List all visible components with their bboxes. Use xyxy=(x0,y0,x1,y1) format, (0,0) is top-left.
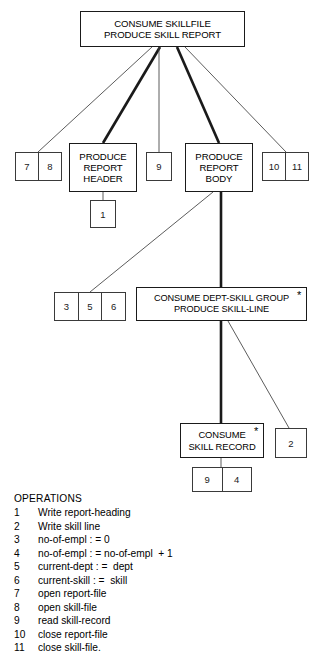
legend-item: 1Write report-heading xyxy=(14,506,314,519)
legend-item-text: Write report-heading xyxy=(38,506,314,519)
operation-cell: 8 xyxy=(39,153,61,180)
operation-cell: 5 xyxy=(79,293,103,320)
legend-item: 8open skill-file xyxy=(14,601,314,614)
operation-cell: 3 xyxy=(55,293,79,320)
legend-item: 2Write skill line xyxy=(14,520,314,533)
operation-box-ops-2: 2 xyxy=(275,428,307,458)
operation-cell: 4 xyxy=(223,468,252,491)
process-label-skill-record: CONSUME SKILL RECORD xyxy=(188,429,255,451)
operation-cell: 2 xyxy=(276,429,306,457)
legend-item-number: 4 xyxy=(14,547,38,560)
operation-cell: 7 xyxy=(16,153,39,180)
legend-item-number: 2 xyxy=(14,520,38,533)
process-label-root: CONSUME SKILLFILE PRODUCE SKILL REPORT xyxy=(104,18,221,41)
legend-item-text: current-skill : = skill xyxy=(38,574,314,587)
connector-root-to-ops78 xyxy=(38,47,152,152)
legend-rows: 1Write report-heading2Write skill line3n… xyxy=(14,506,314,654)
operation-cell: 6 xyxy=(102,293,125,320)
process-label-dept-skill-group: CONSUME DEPT-SKILL GROUP PRODUCE SKILL-L… xyxy=(154,293,289,315)
legend-item-number: 5 xyxy=(14,560,38,573)
operation-box-ops-1: 1 xyxy=(90,200,116,228)
legend-item: 11close skill-file. xyxy=(14,641,314,654)
legend-item-number: 6 xyxy=(14,574,38,587)
iteration-marker-dept-skill-group: * xyxy=(297,290,301,301)
legend-item-text: close skill-file. xyxy=(38,641,314,654)
legend-item: 7open report-file xyxy=(14,587,314,600)
legend-item-text: close report-file xyxy=(38,628,314,641)
process-label-report-header: PRODUCE REPORT HEADER xyxy=(79,151,126,185)
connector-root-to-body xyxy=(177,47,219,143)
legend-item: 3no-of-empl : = 0 xyxy=(14,533,314,546)
connector-root-to-header xyxy=(103,47,160,143)
legend-item-number: 9 xyxy=(14,614,38,627)
legend-item-number: 7 xyxy=(14,587,38,600)
operation-box-ops-3-5-6: 356 xyxy=(54,292,126,321)
legend-item-text: open skill-file xyxy=(38,601,314,614)
connector-group-to-ops2 xyxy=(228,321,289,428)
legend-item: 10close report-file xyxy=(14,628,314,641)
legend-item: 4no-of-empl : = no-of-empl + 1 xyxy=(14,547,314,560)
operation-box-ops-7-8: 78 xyxy=(15,152,62,181)
legend-item-text: no-of-empl : = 0 xyxy=(38,533,314,546)
process-box-dept-skill-group: CONSUME DEPT-SKILL GROUP PRODUCE SKILL-L… xyxy=(136,287,307,321)
legend-item: 6current-skill : = skill xyxy=(14,574,314,587)
operations-legend: OPERATIONS 1Write report-heading2Write s… xyxy=(14,492,314,654)
operation-box-ops-9-4: 94 xyxy=(192,467,252,492)
process-label-report-body: PRODUCE REPORT BODY xyxy=(195,151,242,185)
operation-box-ops-9-top: 9 xyxy=(146,152,172,181)
connector-layer xyxy=(0,0,321,495)
legend-item-number: 3 xyxy=(14,533,38,546)
legend-item-number: 1 xyxy=(14,506,38,519)
process-box-root: CONSUME SKILLFILE PRODUCE SKILL REPORT xyxy=(80,11,245,47)
legend-item-text: no-of-empl : = no-of-empl + 1 xyxy=(38,547,314,560)
legend-item: 9read skill-record xyxy=(14,614,314,627)
operation-cell: 11 xyxy=(286,153,308,180)
process-box-skill-record: CONSUME SKILL RECORD xyxy=(180,423,264,458)
legend-item-text: Write skill line xyxy=(38,520,314,533)
operation-cell: 1 xyxy=(91,201,115,227)
legend-item-text: read skill-record xyxy=(38,614,314,627)
iteration-marker-skill-record: * xyxy=(254,426,258,437)
operation-cell: 10 xyxy=(263,153,286,180)
legend-title: OPERATIONS xyxy=(14,492,314,505)
legend-item: 5current-dept : = dept xyxy=(14,560,314,573)
legend-item-number: 10 xyxy=(14,628,38,641)
legend-item-number: 11 xyxy=(14,641,38,654)
process-box-report-header: PRODUCE REPORT HEADER xyxy=(69,143,137,192)
operation-box-ops-10-11: 1011 xyxy=(262,152,309,181)
operation-cell: 9 xyxy=(147,153,171,180)
operation-cell: 9 xyxy=(193,468,223,491)
legend-item-number: 8 xyxy=(14,601,38,614)
legend-item-text: open report-file xyxy=(38,587,314,600)
legend-item-text: current-dept : = dept xyxy=(38,560,314,573)
process-box-report-body: PRODUCE REPORT BODY xyxy=(185,143,253,192)
